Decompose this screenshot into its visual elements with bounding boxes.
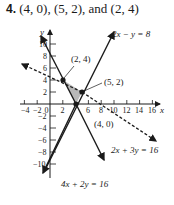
x-axis-label: x xyxy=(159,105,164,115)
vertex-5-2 xyxy=(79,89,84,94)
x-tick-label: 10 xyxy=(110,106,118,115)
x-tick-label: 16 xyxy=(148,106,156,115)
vertex-2-4 xyxy=(60,77,65,82)
line-2x-3y-16 xyxy=(82,92,156,141)
y-tick-label: −6 xyxy=(38,136,47,145)
equation-label-2x-3y-16: 2x + 3y = 16 xyxy=(111,145,159,155)
line-2x-y-8 xyxy=(44,32,114,172)
equation-label-4x-2y-16: 4x + 2y = 16 xyxy=(61,179,109,189)
x-tick-label: 12 xyxy=(123,106,131,115)
y-axis-label: y xyxy=(39,27,44,37)
vertex-label-2-4: (2, 4) xyxy=(71,54,91,64)
leader-line xyxy=(64,66,74,78)
x-tick-label: 14 xyxy=(135,106,143,115)
x-tick-label: 2 xyxy=(61,106,65,115)
y-tick-label: −4 xyxy=(38,124,47,133)
y-tick-label: −10 xyxy=(33,160,46,169)
y-tick-label: 8 xyxy=(43,52,47,61)
x-tick-label: −4 xyxy=(21,106,30,115)
vertex-4-0 xyxy=(73,101,78,106)
x-tick-label: 6 xyxy=(86,106,90,115)
y-tick-label: −8 xyxy=(38,148,47,157)
vertex-label-4-0: (4, 0) xyxy=(94,119,114,129)
x-ticks xyxy=(24,100,152,104)
y-tick-label: 4 xyxy=(43,76,47,85)
y-tick-label: 6 xyxy=(43,64,47,73)
y-tick-label: −2 xyxy=(38,112,47,121)
vertex-label-5-2: (5, 2) xyxy=(104,77,124,87)
graph: −4 −2 0 2 6 8 10 12 14 16 x 10 8 6 4 2 −… xyxy=(0,0,174,205)
equation-label-2x-y-8: 2x − y = 8 xyxy=(112,29,151,39)
y-tick-label: 2 xyxy=(43,88,47,97)
x-tick-label: 8 xyxy=(99,106,103,115)
